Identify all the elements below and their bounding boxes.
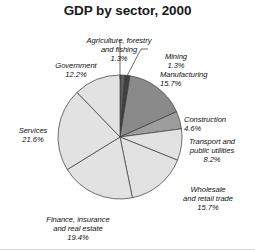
slice-label-government-name: Government xyxy=(55,61,96,70)
slice-label-services: Services 21.6% xyxy=(4,117,62,153)
slice-label-wholesale-pct: 15.7% xyxy=(164,203,252,212)
slice-label-transport: Transport and public utilities 8.2% xyxy=(172,128,252,173)
slice-label-finance: Finance, insurance and real estate 19.4% xyxy=(26,206,130,250)
slice-label-finance-pct: 19.4% xyxy=(26,233,130,242)
pie-chart-figure: GDP by sector, 2000 Agriculture, forestr… xyxy=(0,0,255,250)
slice-label-services-name: Services xyxy=(19,126,48,135)
slice-label-wholesale: Wholesale and retail trade 15.7% xyxy=(164,176,252,221)
slice-label-mining-name: Mining xyxy=(165,52,187,61)
slice-label-manufacturing-name: Manufacturing xyxy=(160,70,207,79)
slice-label-manufacturing-pct: 15.7% xyxy=(160,79,246,88)
slice-label-finance-name: Finance, insurance and real estate xyxy=(46,215,109,233)
slice-label-manufacturing: Manufacturing 15.7% xyxy=(160,61,246,97)
slice-label-government-pct: 12.2% xyxy=(38,70,114,79)
slice-label-transport-name: Transport and public utilities xyxy=(189,137,235,155)
slice-label-transport-pct: 8.2% xyxy=(172,155,252,164)
slice-label-government: Government 12.2% xyxy=(38,52,114,88)
slice-label-wholesale-name: Wholesale and retail trade xyxy=(183,185,233,203)
slice-label-services-pct: 21.6% xyxy=(4,135,62,144)
slice-label-construction-name: Construction xyxy=(184,115,226,124)
